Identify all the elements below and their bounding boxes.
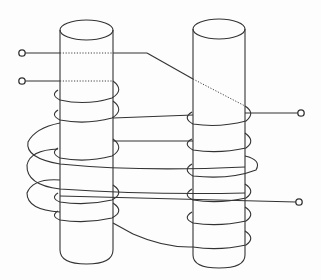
left-limb-coil <box>54 81 118 222</box>
terminal-right-upper-icon <box>298 110 304 116</box>
right-core-limb <box>193 19 245 268</box>
secondary-lead-lower <box>60 196 296 202</box>
primary-lead-upper <box>25 53 245 106</box>
right-limb-coil <box>187 106 257 249</box>
terminal-lower-left-icon <box>19 78 25 84</box>
left-core-limb <box>60 20 113 264</box>
diagram-canvas <box>0 0 321 280</box>
transformer-windings-diagram <box>0 0 321 280</box>
terminal-upper-left-icon <box>19 50 25 56</box>
terminal-right-lower-icon <box>296 199 302 205</box>
inter-limb-leads <box>113 115 193 247</box>
